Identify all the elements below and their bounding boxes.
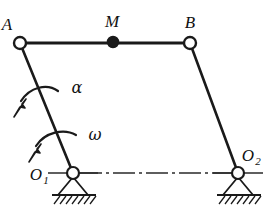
figure-canvas: A M B O 1 O 2 α ω [0,0,272,213]
label-pivot-o2: O [242,146,254,165]
link-crank-A-O1 [20,43,73,173]
label-omega: ω [88,125,101,144]
linkage-diagram: A M B O 1 O 2 α ω [0,0,272,213]
omega-arrow [29,132,76,162]
joint-b[interactable] [184,37,196,49]
label-alpha: α [72,78,83,97]
joint-m[interactable] [108,37,119,48]
omega-arrow-head [29,144,41,162]
label-point-b: B [185,13,196,32]
label-pivot-o2-subscript: 2 [255,155,261,167]
joint-o2[interactable] [232,167,244,179]
joint-o1[interactable] [67,167,79,179]
alpha-arrow-head [14,99,26,117]
label-pivot-o1: O [30,165,42,184]
support-o2-hatching [219,196,261,204]
label-point-m: M [104,12,120,31]
alpha-arrow [14,87,58,117]
joint-a[interactable] [14,37,26,49]
link-rocker-B-O2 [190,43,238,173]
support-o1-hatching [54,196,96,204]
label-pivot-o1-subscript: 1 [43,174,49,186]
label-point-a: A [1,15,13,34]
